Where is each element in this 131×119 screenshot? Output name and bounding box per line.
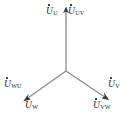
phase-u-subscript: U: [53, 9, 58, 16]
phasor-v-arrowhead: [102, 93, 110, 101]
phasor-diagram: UU UUV UWU UW UV UVW: [0, 0, 131, 119]
phasor-w-vector: [23, 71, 66, 101]
phase-v-symbol: U: [108, 80, 115, 90]
overdot-icon: [48, 4, 50, 6]
label-phase-v: UV: [108, 80, 120, 90]
label-line-vw: UVW: [93, 101, 110, 111]
line-vw-symbol: U: [93, 101, 100, 111]
phasor-vector-graphic: [0, 0, 131, 119]
phase-w-subscript: W: [32, 103, 38, 110]
label-line-uv: UUV: [68, 7, 84, 17]
overdot-icon: [110, 77, 112, 79]
phase-u-symbol: U: [46, 7, 53, 17]
phasor-w-line: [29, 71, 67, 98]
line-wu-subscript: WU: [11, 82, 22, 89]
phase-w-symbol: U: [25, 101, 32, 111]
label-phase-u: UU: [46, 7, 58, 17]
phasor-v-vector: [66, 71, 109, 100]
line-wu-symbol: U: [4, 80, 11, 90]
line-vw-subscript: VW: [100, 103, 111, 110]
phasor-v-line: [66, 71, 104, 97]
overdot-icon: [70, 4, 72, 6]
phase-v-subscript: V: [115, 82, 120, 89]
label-phase-w: UW: [25, 101, 38, 111]
line-uv-subscript: UV: [75, 9, 84, 16]
overdot-icon: [27, 98, 29, 100]
line-uv-symbol: U: [68, 7, 75, 17]
overdot-icon: [6, 77, 8, 79]
overdot-icon: [95, 98, 97, 100]
label-line-wu: UWU: [4, 80, 21, 90]
